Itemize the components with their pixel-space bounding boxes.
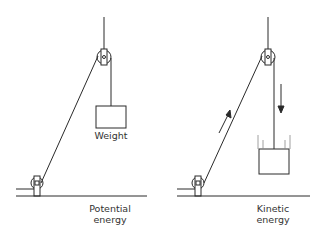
potential-energy-line2: energy [80, 214, 140, 225]
right-diagram-kinetic [177, 17, 310, 196]
weight-label: Weight [86, 130, 136, 141]
potential-energy-label: Potential energy [80, 203, 140, 225]
potential-energy-line1: Potential [80, 203, 140, 214]
left-weight-box [96, 106, 126, 128]
kinetic-energy-label: Kinetic energy [243, 203, 303, 225]
left-bottom-pulley-icon [31, 176, 43, 196]
kinetic-energy-line1: Kinetic [243, 203, 303, 214]
up-arrow-icon [219, 110, 231, 133]
left-top-pulley-icon [97, 49, 111, 65]
right-diagonal-rope [204, 56, 262, 183]
left-diagram-potential [16, 17, 147, 196]
kinetic-energy-line2: energy [243, 214, 303, 225]
left-diagonal-rope [41, 56, 98, 183]
right-weight-box [259, 149, 289, 174]
down-arrow-icon [278, 84, 284, 113]
right-bottom-pulley-icon [192, 176, 204, 196]
right-top-pulley-icon [261, 49, 275, 65]
